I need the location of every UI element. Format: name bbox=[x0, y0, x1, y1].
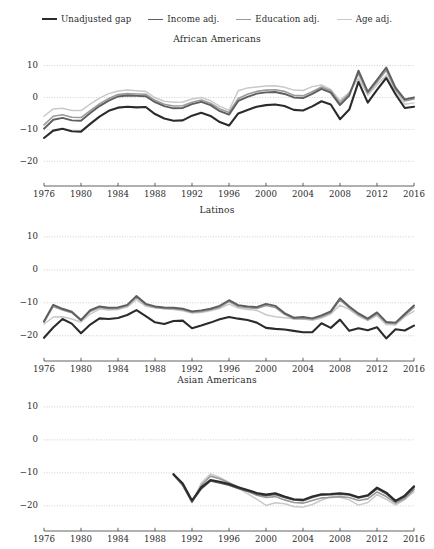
plot-area bbox=[0, 0, 434, 549]
plot-area bbox=[0, 0, 434, 549]
x-tick-label-4: 1992 bbox=[175, 365, 209, 374]
y-tick-label-2: −10 bbox=[10, 125, 38, 134]
x-tick-label-3: 1988 bbox=[138, 535, 172, 544]
x-tick-label-6: 2000 bbox=[249, 190, 283, 199]
y-tick-label-0: 10 bbox=[10, 402, 38, 411]
legend-item-2[interactable]: Education adj. bbox=[236, 14, 319, 24]
x-tick-label-10: 2016 bbox=[397, 190, 431, 199]
y-tick-label-3: −20 bbox=[10, 331, 38, 340]
x-tick-label-7: 2004 bbox=[286, 535, 320, 544]
series-line-0 bbox=[44, 310, 414, 338]
clipped-caption bbox=[0, 0, 434, 7]
x-tick-label-0: 1976 bbox=[27, 535, 61, 544]
y-tick-label-0: 10 bbox=[10, 232, 38, 241]
x-tick-label-3: 1988 bbox=[138, 365, 172, 374]
series-line-3 bbox=[174, 474, 415, 508]
x-tick-label-5: 1996 bbox=[212, 535, 246, 544]
y-tick-label-2: −10 bbox=[10, 298, 38, 307]
x-tick-label-9: 2012 bbox=[360, 190, 394, 199]
x-tick-label-2: 1984 bbox=[101, 535, 135, 544]
legend-label: Education adj. bbox=[255, 14, 319, 24]
x-tick-label-1: 1980 bbox=[64, 365, 98, 374]
panel-title: Asian Americans bbox=[0, 375, 434, 385]
y-tick-label-3: −20 bbox=[10, 501, 38, 510]
series-line-2 bbox=[174, 474, 415, 503]
x-tick-label-9: 2012 bbox=[360, 535, 394, 544]
x-tick-label-4: 1992 bbox=[175, 190, 209, 199]
y-tick-label-3: −20 bbox=[10, 157, 38, 166]
x-tick-label-6: 2000 bbox=[249, 365, 283, 374]
series-line-1 bbox=[174, 475, 415, 502]
y-tick-label-1: 0 bbox=[10, 435, 38, 444]
legend-item-1[interactable]: Income adj. bbox=[148, 14, 219, 24]
chart-legend: Unadjusted gapIncome adj.Education adj.A… bbox=[0, 11, 434, 27]
legend-swatch-line bbox=[337, 19, 352, 20]
x-tick-label-9: 2012 bbox=[360, 365, 394, 374]
x-tick-label-0: 1976 bbox=[27, 365, 61, 374]
y-tick-label-1: 0 bbox=[10, 265, 38, 274]
x-tick-label-2: 1984 bbox=[101, 190, 135, 199]
panel-title: Latinos bbox=[0, 205, 434, 215]
y-tick-label-0: 10 bbox=[10, 61, 38, 70]
legend-item-0[interactable]: Unadjusted gap bbox=[42, 14, 131, 24]
series-line-1 bbox=[44, 296, 414, 323]
series-line-2 bbox=[44, 297, 414, 323]
series-line-1 bbox=[44, 67, 414, 128]
legend-label: Age adj. bbox=[356, 14, 392, 24]
series-line-3 bbox=[44, 75, 414, 116]
x-tick-label-5: 1996 bbox=[212, 365, 246, 374]
series-line-0 bbox=[174, 474, 415, 501]
figure-root: Unadjusted gapIncome adj.Education adj.A… bbox=[0, 0, 434, 549]
legend-swatch-line bbox=[236, 19, 251, 20]
y-tick-label-2: −10 bbox=[10, 468, 38, 477]
plot-area bbox=[0, 0, 434, 549]
panel-title: African Americans bbox=[0, 34, 434, 44]
x-tick-label-8: 2008 bbox=[323, 190, 357, 199]
x-tick-label-7: 2004 bbox=[286, 190, 320, 199]
x-tick-label-8: 2008 bbox=[323, 365, 357, 374]
x-tick-label-1: 1980 bbox=[64, 190, 98, 199]
series-line-3 bbox=[44, 300, 414, 325]
legend-item-3[interactable]: Age adj. bbox=[337, 14, 392, 24]
x-tick-label-8: 2008 bbox=[323, 535, 357, 544]
legend-label: Unadjusted gap bbox=[61, 14, 131, 24]
x-tick-label-2: 1984 bbox=[101, 365, 135, 374]
x-tick-label-5: 1996 bbox=[212, 190, 246, 199]
y-tick-label-1: 0 bbox=[10, 93, 38, 102]
series-line-2 bbox=[44, 70, 414, 125]
legend-swatch-line bbox=[42, 18, 57, 20]
x-tick-label-3: 1988 bbox=[138, 190, 172, 199]
x-tick-label-7: 2004 bbox=[286, 365, 320, 374]
x-tick-label-1: 1980 bbox=[64, 535, 98, 544]
legend-label: Income adj. bbox=[167, 14, 219, 24]
legend-swatch-line bbox=[148, 19, 163, 20]
series-line-0 bbox=[44, 78, 414, 138]
x-tick-label-10: 2016 bbox=[397, 535, 431, 544]
x-tick-label-0: 1976 bbox=[27, 190, 61, 199]
x-tick-label-10: 2016 bbox=[397, 365, 431, 374]
x-tick-label-4: 1992 bbox=[175, 535, 209, 544]
x-tick-label-6: 2000 bbox=[249, 535, 283, 544]
